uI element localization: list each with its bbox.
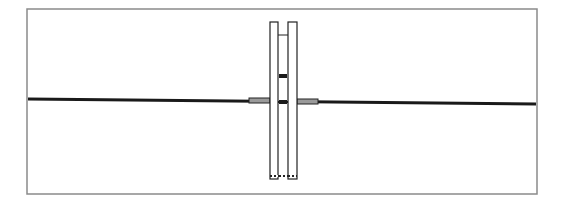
left-column — [270, 22, 278, 179]
base-dot — [276, 175, 278, 177]
mechanical-diagram — [0, 0, 564, 204]
right-column — [288, 22, 297, 179]
base-dot — [290, 175, 292, 177]
base-dot — [294, 175, 296, 177]
base-dot — [281, 175, 283, 177]
diagram-canvas — [0, 0, 564, 204]
left-sleeve — [249, 98, 270, 103]
base-dot — [285, 175, 287, 177]
shaft-block — [279, 100, 287, 104]
right-sleeve — [297, 99, 318, 104]
upper-block — [279, 74, 287, 78]
base-dot — [272, 175, 274, 177]
inner-channel — [278, 35, 288, 179]
